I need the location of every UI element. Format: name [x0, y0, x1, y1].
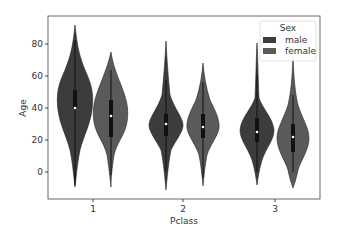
y-axis-label: Age	[18, 99, 28, 117]
violin-chart: 0 20 40 60 80 Age 1 2 3 Pclass Sex male …	[0, 0, 338, 241]
x-tick-label: 2	[180, 204, 186, 214]
legend-swatch-male	[263, 37, 276, 43]
y-axis: 0 20 40 60 80 Age	[18, 39, 48, 177]
x-axis: 1 2 3 Pclass	[90, 199, 278, 226]
y-tick-label: 80	[32, 39, 44, 49]
legend: Sex male female	[260, 21, 316, 61]
legend-title: Sex	[280, 23, 297, 33]
y-tick-label: 0	[37, 167, 43, 177]
y-tick-label: 40	[32, 103, 44, 113]
legend-swatch-female	[263, 48, 276, 54]
x-tick-label: 3	[272, 204, 278, 214]
legend-label-female: female	[285, 46, 316, 56]
y-tick-label: 20	[32, 135, 44, 145]
x-tick-label: 1	[90, 204, 96, 214]
legend-label-male: male	[285, 35, 308, 45]
y-tick-label: 60	[32, 71, 44, 81]
x-axis-label: Pclass	[170, 216, 198, 226]
